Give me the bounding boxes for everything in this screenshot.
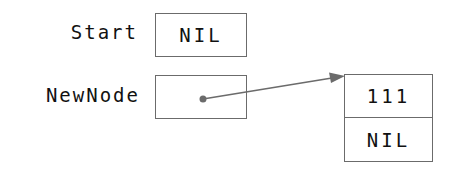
arrowhead-icon — [329, 73, 345, 84]
pointer-arrow — [0, 0, 454, 169]
